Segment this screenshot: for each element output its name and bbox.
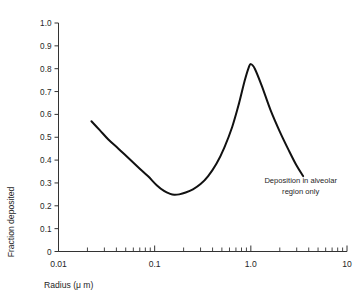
- y-tick-label: 0.9: [40, 42, 52, 51]
- y-tick-label: 0.8: [40, 65, 52, 74]
- y-tick-label: 0.4: [40, 156, 52, 165]
- y-tick-label: 0.2: [40, 202, 52, 211]
- x-axis-title: Radius (μ m): [44, 280, 93, 290]
- y-tick-label: 0: [47, 248, 52, 257]
- chart-background: [0, 0, 361, 301]
- deposition-chart: 00.10.20.30.40.50.60.70.80.91.0 0.010.11…: [0, 0, 361, 301]
- annotation-line-1: Deposition in alveolar: [264, 176, 337, 185]
- x-tick-label: 0.1: [149, 259, 161, 269]
- y-tick-label: 0.6: [40, 110, 52, 119]
- y-tick-label: 0.7: [40, 88, 52, 97]
- x-tick-label: 10: [342, 259, 352, 269]
- y-tick-label: 0.3: [40, 179, 52, 188]
- y-axis-title: Fraction deposited: [6, 186, 16, 257]
- x-tick-label: 0.01: [50, 259, 67, 269]
- y-tick-label: 0.5: [40, 133, 52, 142]
- x-tick-label: 1.0: [245, 259, 257, 269]
- y-tick-label: 0.1: [40, 225, 52, 234]
- y-tick-label: 1.0: [40, 19, 52, 28]
- annotation-line-2: region only: [282, 187, 319, 196]
